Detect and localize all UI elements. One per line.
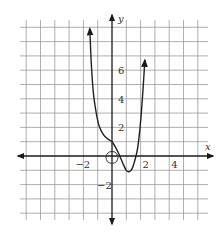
y-tick-label: 6 <box>118 65 124 76</box>
x-tick-label: 4 <box>171 159 177 170</box>
x-tick-label: −2 <box>75 159 90 170</box>
function-graph: −224642−2 x y <box>0 0 219 235</box>
y-tick-label: −2 <box>97 180 112 191</box>
y-tick-label: 2 <box>118 122 124 133</box>
grid <box>20 20 208 220</box>
y-axis-label: y <box>117 13 124 24</box>
x-tick-label: 2 <box>143 159 149 170</box>
x-axis-label: x <box>205 141 211 152</box>
y-tick-label: 4 <box>118 94 124 105</box>
